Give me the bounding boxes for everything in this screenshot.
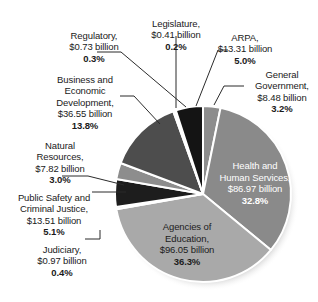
callout-business-text: Business and Economic Development, $36.5… <box>56 74 113 120</box>
callout-public-safety-text: Public Safety and Criminal Justice, $13.… <box>18 192 90 226</box>
callout-judiciary: Judiciary, $0.97 billion 0.4% <box>18 232 106 290</box>
callout-general-government-text: General Government, $8.48 billion <box>255 69 309 103</box>
slice-label-hhs-text: Health and Human Services, $86.97 billio… <box>220 160 291 195</box>
callout-natural-resources-text: Natural Resources, $7.82 billion <box>35 140 84 174</box>
slice-label-hhs-percent: 32.8% <box>211 195 299 207</box>
callout-legislature: Legislature, $0.41 billion 0.2% <box>140 6 212 64</box>
callout-legislature-text: Legislature, $0.41 billion <box>151 18 200 41</box>
callout-judiciary-text: Judiciary, $0.97 billion <box>37 244 86 267</box>
callout-general-government: General Government, $8.48 billion 3.2% <box>246 57 318 126</box>
pie-chart-figure: Regulatory, $0.73 billion 0.3% Legislatu… <box>0 0 318 302</box>
leader-line-general-government <box>214 86 244 105</box>
callout-general-government-percent: 3.2% <box>246 103 318 115</box>
callout-arpa-text: ARPA, $13.31 billion <box>218 32 273 55</box>
callout-legislature-percent: 0.2% <box>140 41 212 53</box>
slice-label-agencies-of-education: Agencies of Education, $96.05 billion 36… <box>141 209 233 280</box>
slice-label-education-text: Agencies of Education, $96.05 billion <box>160 221 215 256</box>
callout-judiciary-percent: 0.4% <box>18 267 106 279</box>
slice-label-education-percent: 36.3% <box>141 256 233 268</box>
callout-regulatory-text: Regulatory, $0.73 billion <box>69 30 118 53</box>
